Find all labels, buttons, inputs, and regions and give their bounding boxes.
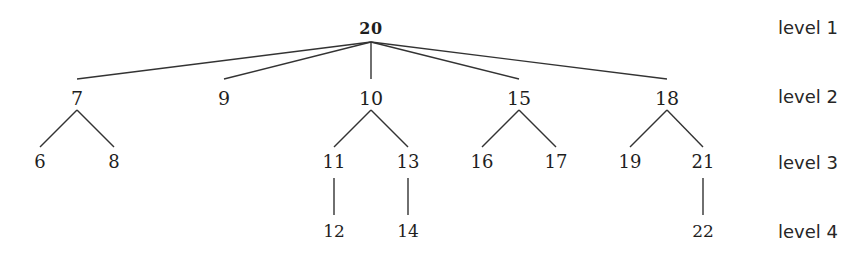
node-13: 13 <box>397 153 420 171</box>
node-19: 19 <box>619 153 642 171</box>
edge-10-13 <box>371 110 408 147</box>
node-8: 8 <box>108 153 119 171</box>
level-label-3: level 3 <box>778 154 838 172</box>
tree-diagram <box>0 0 862 261</box>
node-7: 7 <box>71 89 83 108</box>
node-16: 16 <box>471 153 494 171</box>
node-15: 15 <box>507 89 531 108</box>
edge-20-15 <box>371 42 519 79</box>
node-18: 18 <box>655 89 679 108</box>
edge-15-16 <box>482 110 519 147</box>
edge-10-11 <box>334 110 371 147</box>
edge-7-8 <box>77 110 114 147</box>
node-21: 21 <box>692 153 715 171</box>
node-9: 9 <box>218 89 230 108</box>
node-6: 6 <box>34 153 45 171</box>
node-22: 22 <box>692 223 714 240</box>
edge-20-9 <box>224 42 371 79</box>
edge-20-7 <box>77 42 371 79</box>
node-20: 20 <box>359 21 382 37</box>
node-14: 14 <box>397 223 419 240</box>
node-17: 17 <box>545 153 568 171</box>
edge-15-17 <box>519 110 556 147</box>
node-10: 10 <box>359 89 383 108</box>
tree-edges <box>0 0 862 261</box>
level-label-1: level 1 <box>778 19 838 37</box>
node-12: 12 <box>323 223 345 240</box>
edge-7-6 <box>40 110 77 147</box>
level-label-2: level 2 <box>778 88 838 106</box>
edge-18-19 <box>630 110 667 147</box>
edge-18-21 <box>667 110 703 147</box>
edge-20-18 <box>371 42 667 79</box>
node-11: 11 <box>323 153 346 171</box>
level-label-4: level 4 <box>778 223 838 241</box>
